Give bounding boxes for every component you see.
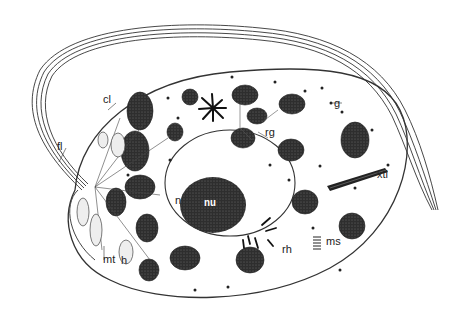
label-cl: cl <box>103 94 111 105</box>
label-ms: ms <box>326 236 341 247</box>
label-mt: mt <box>103 254 115 265</box>
label-n: n <box>175 195 181 206</box>
rosette-upper <box>199 94 226 121</box>
cell-diagram: cl fl g rg xtl n nu mt h rh ms <box>0 0 466 317</box>
diagram-drawing <box>0 0 466 317</box>
label-fl: fl <box>57 141 63 152</box>
label-nu: nu <box>204 199 216 209</box>
label-xtl: xtl <box>377 169 388 180</box>
label-g: g <box>334 98 340 109</box>
flagellum <box>32 25 438 210</box>
rosette-lower <box>243 218 276 248</box>
label-rh: rh <box>282 244 292 255</box>
organelles <box>106 85 369 281</box>
label-h: h <box>121 255 127 266</box>
label-rg: rg <box>265 127 275 138</box>
ms-body <box>313 237 321 249</box>
